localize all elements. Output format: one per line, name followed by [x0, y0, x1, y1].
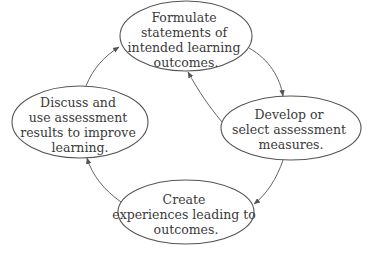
node-formulate: Formulate statements of intended learnin… — [120, 1, 252, 71]
node-develop: Develop or select assessment measures. — [221, 96, 361, 160]
node-create: Create experiences leading to outcomes. — [112, 180, 259, 244]
edge-formulate-to-develop — [249, 48, 283, 96]
node-discuss: Discuss and use assessment results to im… — [12, 86, 148, 158]
edge-discuss-to-formulate — [86, 47, 119, 86]
edge-develop-to-formulate-feedback — [188, 72, 222, 122]
edge-create-to-discuss — [87, 158, 121, 202]
edge-develop-to-create — [254, 160, 283, 204]
assessment-cycle-diagram: Formulate statements of intended learnin… — [0, 0, 369, 258]
